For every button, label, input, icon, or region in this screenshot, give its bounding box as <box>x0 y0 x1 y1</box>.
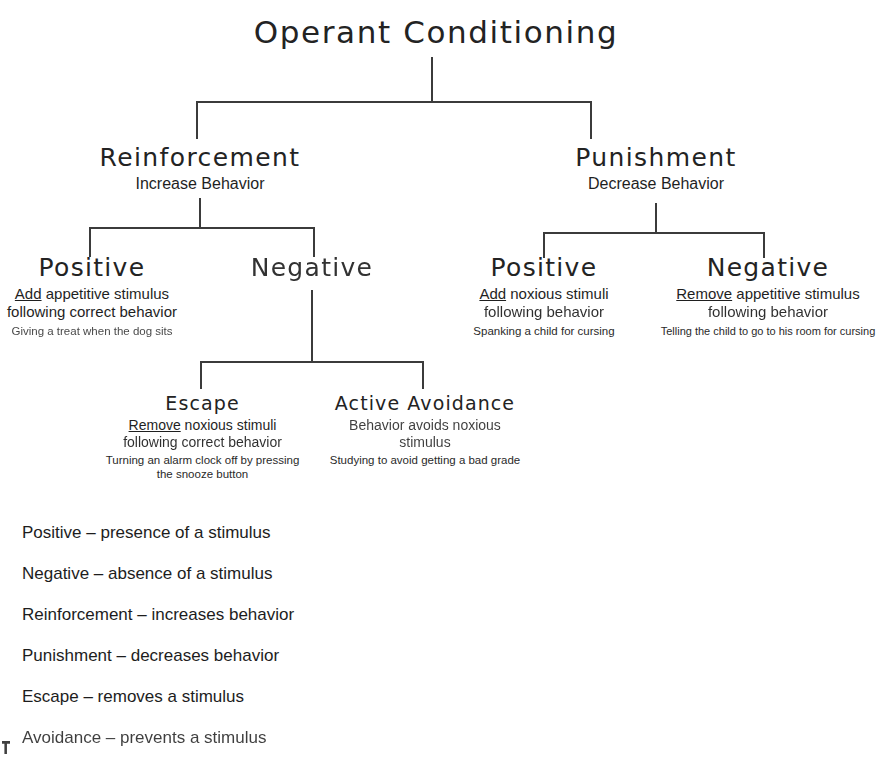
connector-level2-left-drop <box>196 101 198 139</box>
connector-root-stem <box>431 57 433 102</box>
keyword-add: Add <box>15 285 42 302</box>
connector-negative-right-drop <box>422 361 424 389</box>
node-reinforcement-negative: Negative <box>212 253 412 282</box>
node-reinforcement-label: Reinforcement <box>60 143 340 172</box>
node-punishment-negative-label: Negative <box>660 253 876 282</box>
node-root: Operant Conditioning <box>236 14 636 50</box>
node-reinforcement-negative-label: Negative <box>212 253 412 282</box>
definitions-legend: Positive – presence of a stimulus Negati… <box>22 512 452 758</box>
node-punishment-positive-label: Positive <box>455 253 633 282</box>
node-reinforcement: Reinforcement Increase Behavior <box>60 143 340 194</box>
connector-negative-stem <box>311 290 313 362</box>
node-reinforcement-positive-label: Positive <box>0 253 192 282</box>
node-punishment-label: Punishment <box>516 143 796 172</box>
connector-negative-bar <box>200 361 424 363</box>
node-reinforcement-subtitle: Increase Behavior <box>60 174 340 194</box>
node-punishment-subtitle: Decrease Behavior <box>516 174 796 194</box>
keyword-remove: Remove <box>129 417 181 433</box>
description-line-1-rest: appetitive stimulus <box>42 285 170 302</box>
connector-punishment-bar <box>543 232 765 234</box>
node-escape-label: Escape <box>100 392 305 414</box>
description-line-1: Behavior avoids noxious <box>325 417 525 434</box>
node-punishment-negative-description: Remove appetitive stimulus following beh… <box>660 285 876 322</box>
node-escape-description: Remove noxious stimuli following correct… <box>100 417 305 451</box>
description-line-1-rest: appetitive stimulus <box>732 285 860 302</box>
connector-negative-left-drop <box>200 361 202 389</box>
legend-item: Avoidance – prevents a stimulus <box>22 717 452 758</box>
node-punishment-positive-description: Add noxious stimuli following behavior <box>455 285 633 322</box>
node-reinforcement-positive: Positive Add appetitive stimulus followi… <box>0 253 192 338</box>
description-line-2: following behavior <box>660 303 876 321</box>
node-active-avoidance: Active Avoidance Behavior avoids noxious… <box>325 392 525 468</box>
keyword-add: Add <box>479 285 506 302</box>
node-punishment: Punishment Decrease Behavior <box>516 143 796 194</box>
legend-item: Reinforcement – increases behavior <box>22 594 452 635</box>
example-line-1: Turning an alarm clock off by pressing <box>100 454 305 468</box>
connector-level2-bar <box>196 101 592 103</box>
legend-item: Positive – presence of a stimulus <box>22 512 452 553</box>
legend-item: Negative – absence of a stimulus <box>22 553 452 594</box>
description-line-2: following correct behavior <box>0 303 192 321</box>
node-punishment-negative: Negative Remove appetitive stimulus foll… <box>660 253 876 338</box>
node-reinforcement-positive-description: Add appetitive stimulus following correc… <box>0 285 192 322</box>
node-punishment-positive-example: Spanking a child for cursing <box>455 325 633 339</box>
connector-reinforcement-bar <box>89 227 315 229</box>
node-punishment-positive: Positive Add noxious stimuli following b… <box>455 253 633 338</box>
legend-item: Escape – removes a stimulus <box>22 676 452 717</box>
description-line-2: following behavior <box>455 303 633 321</box>
node-reinforcement-positive-example: Giving a treat when the dog sits <box>0 325 192 339</box>
legend-item: Punishment – decreases behavior <box>22 635 452 676</box>
node-active-avoidance-description: Behavior avoids noxious stimulus <box>325 417 525 451</box>
node-punishment-negative-example: Telling the child to go to his room for … <box>660 325 876 338</box>
description-line-2: following correct behavior <box>100 434 305 451</box>
connector-reinforcement-stem <box>199 198 201 228</box>
node-root-label: Operant Conditioning <box>236 14 636 50</box>
connector-level2-right-drop <box>590 101 592 139</box>
description-line-1-rest: noxious stimuli <box>506 285 609 302</box>
node-escape: Escape Remove noxious stimuli following … <box>100 392 305 482</box>
example-line-2: the snooze button <box>100 468 305 482</box>
node-escape-example: Turning an alarm clock off by pressing t… <box>100 454 305 482</box>
description-line-2: stimulus <box>325 434 525 451</box>
keyword-remove: Remove <box>676 285 732 302</box>
node-active-avoidance-label: Active Avoidance <box>325 392 525 414</box>
connector-punishment-stem <box>655 203 657 233</box>
description-line-1-rest: noxious stimuli <box>181 417 277 433</box>
node-active-avoidance-example: Studying to avoid getting a bad grade <box>325 454 525 468</box>
